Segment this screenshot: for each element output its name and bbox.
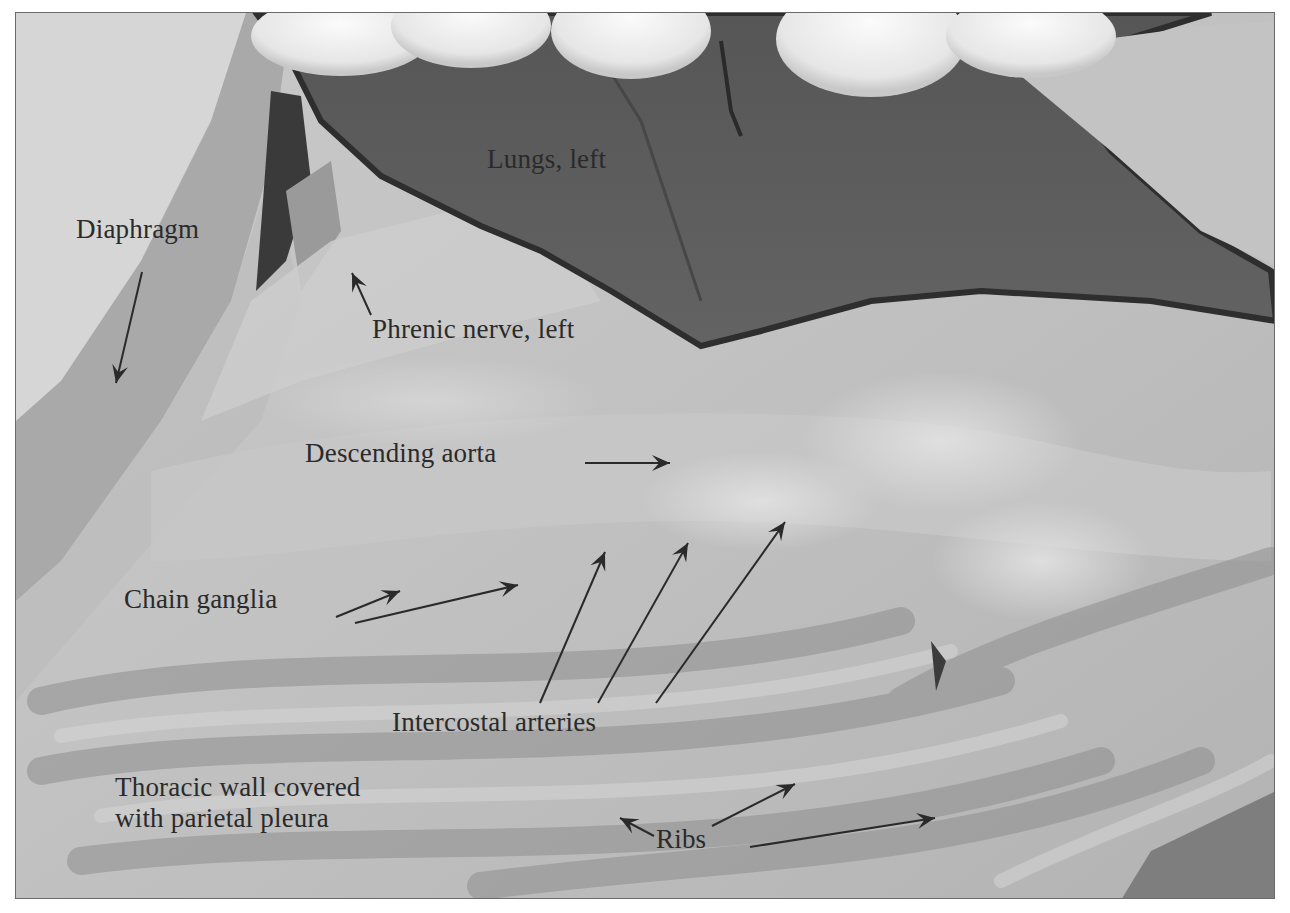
label-ribs: Ribs — [656, 824, 706, 855]
label-lungs-left: Lungs, left — [487, 144, 606, 175]
label-diaphragm: Diaphragm — [76, 214, 199, 245]
label-thoracic-wall: Thoracic wall covered with parietal pleu… — [115, 772, 361, 834]
label-chain-ganglia: Chain ganglia — [124, 584, 277, 615]
label-phrenic-nerve-left: Phrenic nerve, left — [372, 314, 574, 345]
dissection-photo-frame — [15, 12, 1275, 899]
label-descending-aorta: Descending aorta — [305, 438, 496, 469]
label-intercostal-arteries: Intercostal arteries — [392, 707, 596, 738]
thoracic-dissection-photo — [16, 13, 1274, 898]
